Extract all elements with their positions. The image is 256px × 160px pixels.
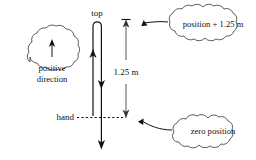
top-label: top	[91, 8, 103, 18]
diagram-svg: top hand 1.25 m positive	[0, 0, 256, 160]
leader-line-position-plus	[144, 22, 168, 23]
turnaround-curve	[93, 22, 101, 40]
distance-label: 1.25 m	[113, 67, 138, 77]
callout-position-plus[interactable]: position + 1.25 m	[169, 4, 243, 40]
callout-zero-position[interactable]: zero position	[172, 115, 236, 148]
callout-positive-direction[interactable]: positive direction	[27, 25, 79, 84]
callout-text-position-plus: position + 1.25 m	[183, 19, 244, 29]
dimension-group: 1.25 m	[113, 20, 138, 118]
callout-text-positive-line2: direction	[37, 74, 68, 84]
callout-text-positive-line1: positive	[38, 63, 65, 73]
leader-line-zero-position	[142, 121, 172, 130]
trajectory-group	[89, 22, 105, 150]
callout-text-zero-position: zero position	[191, 126, 236, 136]
diagram-canvas: top hand 1.25 m positive	[0, 0, 256, 160]
hand-label: hand	[57, 112, 75, 122]
